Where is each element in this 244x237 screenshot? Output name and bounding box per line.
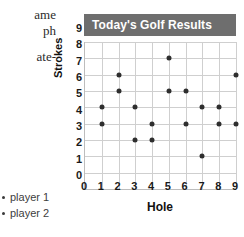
- data-point: [133, 105, 138, 110]
- gridline-vertical: [186, 42, 187, 189]
- legend-label: player 1: [10, 191, 49, 203]
- chart-title: Today's Golf Results: [84, 18, 212, 32]
- x-tick-label: 5: [161, 180, 175, 192]
- y-tick-label: 9: [68, 22, 82, 34]
- x-tick-label: 7: [194, 180, 208, 192]
- x-tick-label: 2: [111, 180, 125, 192]
- data-point: [150, 138, 155, 143]
- gridline-horizontal: [85, 107, 236, 108]
- y-tick-label: 4: [68, 104, 82, 116]
- gridline-vertical: [119, 42, 120, 189]
- x-tick-label: 0: [77, 180, 91, 192]
- y-tick-label: 5: [68, 87, 82, 99]
- y-tick-label: 1: [68, 153, 82, 165]
- text-fragment: ame: [34, 8, 56, 21]
- gridline-vertical: [135, 42, 136, 189]
- chart-title-bar: Today's Golf Results: [84, 14, 236, 36]
- gridline-vertical: [202, 42, 203, 189]
- data-point: [133, 138, 138, 143]
- data-point: [200, 154, 205, 159]
- data-point: [166, 89, 171, 94]
- gridline-horizontal: [85, 140, 236, 141]
- data-point: [116, 72, 121, 77]
- x-tick-label: 9: [228, 180, 242, 192]
- data-point: [234, 72, 239, 77]
- data-point: [166, 56, 171, 61]
- x-axis-tick-labels: 0123456789: [84, 180, 236, 196]
- y-tick-label: 2: [68, 136, 82, 148]
- gridline-horizontal: [85, 58, 236, 59]
- chart-legend: player 1 player 2: [2, 190, 72, 222]
- y-axis-tick-labels: 0123456789: [66, 28, 82, 176]
- gridline-horizontal: [85, 42, 236, 43]
- data-point: [150, 121, 155, 126]
- gridline-vertical: [102, 42, 103, 189]
- data-point: [116, 89, 121, 94]
- gridline-horizontal: [85, 173, 236, 174]
- x-tick-label: 1: [94, 180, 108, 192]
- legend-label: player 2: [10, 207, 49, 219]
- x-tick-label: 8: [211, 180, 225, 192]
- data-point: [200, 105, 205, 110]
- gridline-vertical: [219, 42, 220, 189]
- x-axis-title: Hole: [84, 200, 236, 214]
- data-point: [234, 121, 239, 126]
- legend-item-player-2: player 2: [2, 206, 72, 220]
- gridline-vertical: [236, 42, 237, 189]
- data-point: [183, 121, 188, 126]
- gridline-vertical: [152, 42, 153, 189]
- x-tick-label: 3: [127, 180, 141, 192]
- data-point: [99, 121, 104, 126]
- gridline-horizontal: [85, 156, 236, 157]
- gridline-horizontal: [85, 75, 236, 76]
- y-tick-label: 6: [68, 71, 82, 83]
- gridline-horizontal: [85, 91, 236, 92]
- plot-area: [84, 42, 236, 190]
- y-axis-title: Strokes: [52, 38, 64, 78]
- legend-item-player-1: player 1: [2, 190, 72, 204]
- x-tick-label: 6: [178, 180, 192, 192]
- data-point: [183, 89, 188, 94]
- page-text-column: ame ph ate-: [0, 0, 58, 180]
- data-point: [217, 121, 222, 126]
- text-fragment: ph: [43, 24, 56, 37]
- x-tick-label: 4: [144, 180, 158, 192]
- y-tick-label: 8: [68, 38, 82, 50]
- dot-marker-icon: [2, 196, 5, 199]
- gridline-horizontal: [85, 124, 236, 125]
- y-tick-label: 3: [68, 120, 82, 132]
- golf-results-chart: Today's Golf Results: [84, 14, 236, 190]
- data-point: [217, 105, 222, 110]
- gridline-vertical: [169, 42, 170, 189]
- y-tick-label: 7: [68, 55, 82, 67]
- data-point: [99, 105, 104, 110]
- dot-marker-icon: [2, 212, 5, 215]
